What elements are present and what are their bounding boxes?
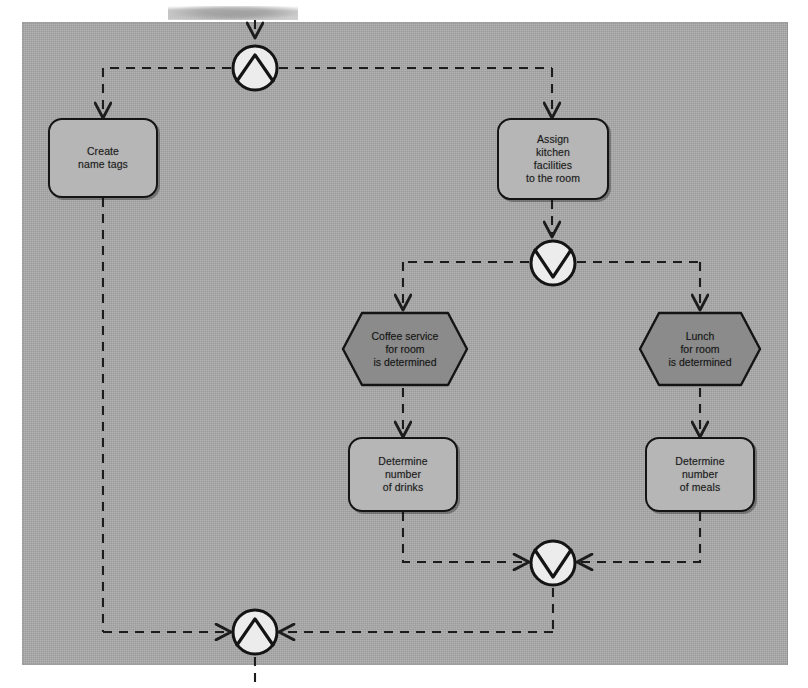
function-create-name-tags[interactable]: Create name tags — [48, 118, 158, 198]
function-assign-kitchen-facilities-label: Assign kitchen facilities to the room — [526, 133, 580, 185]
event-coffee-service-determined-label: Coffee service for room is determined — [340, 310, 470, 388]
and-up-triangle-icon — [229, 42, 281, 94]
function-create-name-tags-label: Create name tags — [78, 145, 128, 171]
event-lunch-determined-label: Lunch for room is determined — [637, 310, 763, 388]
scan-artifact-smudge — [168, 6, 298, 20]
function-determine-number-of-meals[interactable]: Determine number of meals — [645, 437, 755, 512]
diagram-stage: Create name tags Assign kitchen faciliti… — [0, 0, 808, 688]
event-lunch-determined[interactable]: Lunch for room is determined — [637, 310, 763, 388]
function-determine-number-of-meals-label: Determine number of meals — [675, 455, 724, 494]
connector-and-split-top[interactable] — [229, 42, 281, 94]
connector-xor-join-lower[interactable] — [527, 537, 579, 589]
event-coffee-service-determined[interactable]: Coffee service for room is determined — [340, 310, 470, 388]
xor-down-chevron-icon — [527, 237, 579, 289]
function-determine-number-of-drinks-label: Determine number of drinks — [378, 455, 427, 494]
function-determine-number-of-drinks[interactable]: Determine number of drinks — [348, 437, 458, 512]
xor-down-chevron-icon — [527, 537, 579, 589]
function-assign-kitchen-facilities[interactable]: Assign kitchen facilities to the room — [497, 118, 609, 200]
connector-xor-split-middle[interactable] — [527, 237, 579, 289]
connector-and-join-bottom[interactable] — [229, 606, 281, 658]
and-up-triangle-icon — [229, 606, 281, 658]
